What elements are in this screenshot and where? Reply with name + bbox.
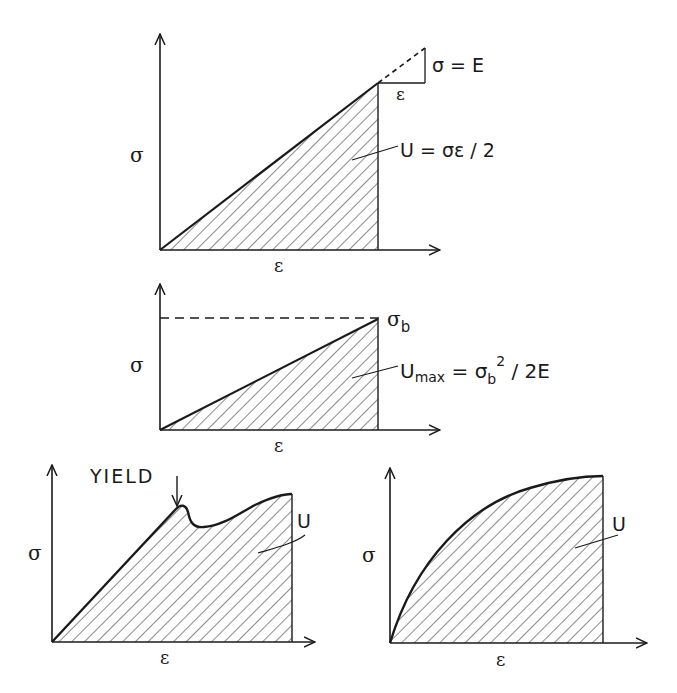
area-label: U [297, 510, 311, 532]
slope-rise-label: σ = E [432, 54, 484, 76]
panel-linear-elastic: σ ε σ = E ε U = σε / 2 [130, 34, 495, 276]
yield-label: YIELD [89, 465, 154, 487]
strain-energy-diagrams: σ ε σ = E ε U = σε / 2 σ ε σb Umax = σb2… [0, 0, 677, 693]
slope-run-label: ε [396, 84, 405, 104]
panel-nonlinear-material: σ ε U [362, 468, 647, 670]
panel-yielding-material: σ ε YIELD U [28, 465, 315, 668]
y-axis-label: σ [130, 143, 144, 167]
area-label: U [612, 513, 626, 535]
y-axis-label: σ [130, 353, 144, 377]
peak-stress-label: σb [387, 307, 410, 336]
x-axis-label: ε [160, 647, 169, 668]
panel-linear-to-failure: σ ε σb Umax = σb2 / 2E [130, 284, 550, 456]
y-axis-label: σ [362, 543, 376, 567]
x-axis-label: ε [274, 435, 283, 456]
x-axis-label: ε [496, 649, 505, 670]
slope-extension-dashed [378, 48, 425, 83]
strain-energy-area [52, 494, 292, 642]
x-axis-label: ε [274, 255, 283, 276]
area-label: U = σε / 2 [400, 139, 495, 161]
y-axis-label: σ [28, 541, 42, 565]
area-label: Umax = σb2 / 2E [400, 353, 550, 387]
